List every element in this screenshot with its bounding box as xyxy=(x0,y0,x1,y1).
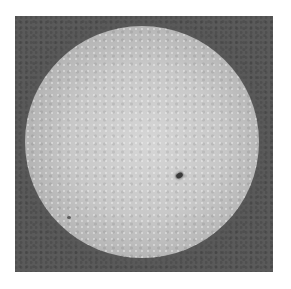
sunspot-small xyxy=(67,216,71,219)
sun-disk xyxy=(25,26,259,258)
photo-frame xyxy=(15,16,273,272)
